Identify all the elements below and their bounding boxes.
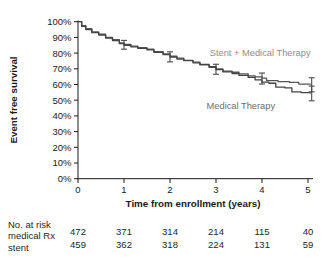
y-tick-label: 100% <box>47 16 72 27</box>
y-tick-label: 50% <box>52 95 72 106</box>
y-tick-label: 0% <box>58 173 72 184</box>
y-tick-label: 10% <box>52 157 72 168</box>
x-axis-title: Time from enrollment (years) <box>126 198 261 209</box>
survival-chart: 0%10%20%30%40%50%60%70%80%90%100% 012345… <box>0 0 329 268</box>
x-tick-label: 5 <box>305 184 310 195</box>
y-tick-label: 20% <box>52 142 72 153</box>
x-tick-label: 0 <box>75 184 80 195</box>
y-tick-label: 30% <box>52 126 72 137</box>
x-tick-label: 2 <box>167 184 172 195</box>
y-tick-label: 40% <box>52 110 72 121</box>
curve-label: Medical Therapy <box>207 101 276 111</box>
x-tick-label: 4 <box>259 184 264 195</box>
x-axis-ticks: 012345 <box>75 179 310 195</box>
y-tick-label: 70% <box>52 63 72 74</box>
km-survival-figure: 0%10%20%30%40%50%60%70%80%90%100% 012345… <box>0 0 329 268</box>
y-tick-label: 90% <box>52 32 72 43</box>
y-axis-title: Event free survival <box>8 56 19 143</box>
y-axis-ticks: 0%10%20%30%40%50%60%70%80%90%100% <box>47 16 78 184</box>
y-tick-label: 60% <box>52 79 72 90</box>
x-tick-label: 3 <box>213 184 218 195</box>
y-tick-label: 80% <box>52 48 72 59</box>
curve-label: Stent + Medical Therapy <box>210 48 311 58</box>
x-tick-label: 1 <box>121 184 126 195</box>
